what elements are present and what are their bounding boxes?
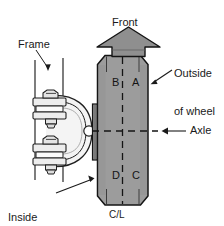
outside-of-wheel-callout-arrow (151, 70, 173, 84)
quadrant-label-c: C (132, 169, 140, 181)
inside-of-wheel-label-line1: Inside (8, 211, 49, 224)
inside-of-wheel-callout-arrow (56, 176, 95, 193)
diagram-canvas: Front Frame Outside of wheel Axle Inside… (0, 0, 224, 226)
axle-label: Axle (190, 124, 211, 137)
outside-of-wheel-label-line1: Outside (174, 67, 215, 80)
quadrant-label-d: D (112, 169, 120, 181)
quadrant-label-a: A (132, 76, 139, 88)
front-direction-arrow (97, 27, 160, 57)
front-label: Front (112, 16, 138, 29)
frame-label: Frame (18, 38, 50, 51)
inside-of-wheel-label: Inside of wheel (8, 186, 49, 226)
center-line-label: C/L (109, 209, 125, 220)
outside-of-wheel-label-line2: of wheel (174, 105, 215, 118)
quadrant-label-b: B (112, 76, 119, 88)
frame-callout-arrow (36, 50, 51, 71)
